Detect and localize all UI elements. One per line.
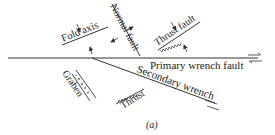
diagram-canvas: Primary wrench fault Secondary wrench Fo… [0,0,275,135]
normal-fault-label: Normal fault [108,2,142,53]
thrust-teeth-icon [160,43,181,52]
thrust-fault-label: Thrust fault [152,12,197,47]
normal-extension-arrow-icon [111,38,118,42]
fault-diagram: Primary wrench fault Secondary wrench Fo… [0,0,275,135]
figure-caption: (a) [146,119,158,131]
thrust-compression-arrow-icon [184,45,187,52]
fold-compression-arrow-icon [90,47,92,54]
thrust-label: Thrust [118,87,146,110]
primary-wrench-fault-label: Primary wrench fault [150,59,243,71]
